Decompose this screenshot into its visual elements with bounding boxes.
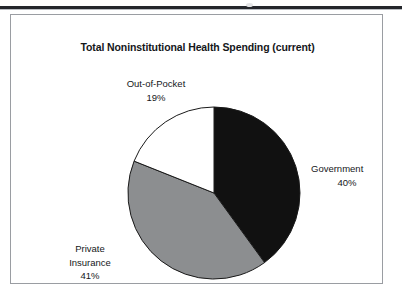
chart-title: Total Noninstitutional Health Spending (… [11, 41, 384, 53]
page-top-rule-shadow [0, 9, 402, 10]
pie-chart-svg [118, 97, 310, 289]
pie-label-government: Government 40% [311, 162, 395, 189]
pie-label-private-insurance-name-line1: Private [75, 243, 105, 254]
pie-label-out-of-pocket-name: Out-of-Pocket [127, 78, 186, 89]
pie-label-out-of-pocket-percent: 19% [97, 91, 215, 105]
pie-label-government-name: Government [311, 163, 363, 174]
pie-label-government-percent: 40% [311, 176, 383, 190]
pie-label-private-insurance: Private Insurance 41% [38, 242, 142, 283]
figure-frame: Total Noninstitutional Health Spending (… [10, 14, 383, 284]
pie-label-out-of-pocket: Out-of-Pocket 19% [97, 77, 215, 104]
pie-label-private-insurance-percent: 41% [38, 269, 142, 283]
pie-chart [118, 97, 310, 289]
pie-label-private-insurance-name-line2: Insurance [69, 257, 111, 268]
scan-artifact [246, 3, 253, 7]
